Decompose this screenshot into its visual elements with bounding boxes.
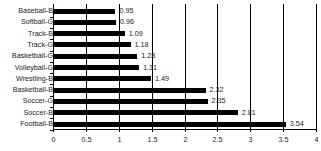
value-label: 1.28 bbox=[141, 52, 155, 60]
value-label: 2.32 bbox=[210, 86, 224, 94]
bar-wrestling-b bbox=[54, 76, 151, 81]
category-label: Soccer-B bbox=[23, 109, 53, 117]
value-label: 1.09 bbox=[129, 30, 143, 38]
category-label: Softball-G bbox=[21, 18, 53, 26]
x-tick-label: 1.5 bbox=[148, 136, 158, 144]
value-label: 2.35 bbox=[212, 97, 226, 105]
x-tick-label: 3.5 bbox=[279, 136, 289, 144]
category-label: Football-B bbox=[20, 120, 53, 128]
category-label: Track-G bbox=[27, 41, 53, 49]
category-label: Track-B bbox=[28, 30, 53, 38]
bar-track-g bbox=[54, 42, 131, 47]
x-tick-label: 1 bbox=[118, 136, 122, 144]
gridline bbox=[316, 4, 317, 129]
value-label: 0.95 bbox=[119, 7, 133, 15]
horizontal-bar-chart: 00.511.522.533.54Baseball-B0.95Softball-… bbox=[0, 0, 321, 151]
value-label: 1.18 bbox=[135, 41, 149, 49]
x-axis bbox=[53, 129, 317, 130]
value-label: 0.96 bbox=[120, 18, 134, 26]
bar-track-b bbox=[54, 31, 125, 36]
category-label: Basketball-G bbox=[12, 52, 53, 60]
value-label: 2.81 bbox=[242, 109, 256, 117]
bar-soccer-g bbox=[54, 99, 208, 104]
value-label: 3.54 bbox=[290, 120, 304, 128]
x-tick-label: 2.5 bbox=[213, 136, 223, 144]
x-tick-label: 0 bbox=[52, 136, 56, 144]
value-label: 1.31 bbox=[143, 64, 157, 72]
category-label: Soccer-G bbox=[23, 97, 53, 105]
gridline bbox=[283, 4, 284, 129]
x-tick-label: 3 bbox=[249, 136, 253, 144]
bar-football-b bbox=[54, 122, 286, 127]
category-label: Volleyball-G bbox=[15, 64, 53, 72]
y-tick bbox=[50, 130, 53, 131]
category-label: Basketball-B bbox=[13, 86, 53, 94]
category-label: Wrestling-B bbox=[16, 75, 53, 83]
bar-soccer-b bbox=[54, 110, 238, 115]
x-tick-label: 0.5 bbox=[82, 136, 92, 144]
x-tick-label: 2 bbox=[184, 136, 188, 144]
bar-basketball-g bbox=[54, 54, 137, 59]
bar-baseball-b bbox=[54, 9, 115, 14]
bar-volleyball-g bbox=[54, 65, 139, 70]
value-label: 1.49 bbox=[155, 75, 169, 83]
bar-basketball-b bbox=[54, 88, 206, 93]
bar-softball-g bbox=[54, 20, 116, 25]
category-label: Baseball-B bbox=[18, 7, 53, 15]
x-tick-label: 4 bbox=[315, 136, 319, 144]
